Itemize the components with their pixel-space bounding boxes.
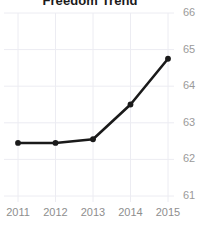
data-point-marker [90,136,96,142]
x-axis-tick-label: 2012 [36,206,76,218]
y-axis-tick-label: 65 [183,43,195,55]
vertical-gridlines [18,13,168,202]
y-axis-tick-label: 62 [183,152,195,164]
x-axis-tick-label: 2013 [73,206,113,218]
data-point-marker [53,140,59,146]
y-axis-tick-label: 61 [183,189,195,201]
y-axis-tick-label: 64 [183,79,195,91]
y-axis-tick-label: 66 [183,6,195,18]
data-point-marker [165,56,171,62]
x-axis-tick-label: 2015 [148,206,188,218]
data-point-marker [15,140,21,146]
x-axis-tick-label: 2011 [0,206,38,218]
x-axis-tick-label: 2014 [111,206,151,218]
data-point-marker [128,102,134,108]
plot-area [0,0,206,230]
horizontal-gridlines [4,13,174,196]
y-axis-tick-label: 63 [183,116,195,128]
chart-container: Freedom Trend 616263646566 2011201220132… [0,0,206,230]
